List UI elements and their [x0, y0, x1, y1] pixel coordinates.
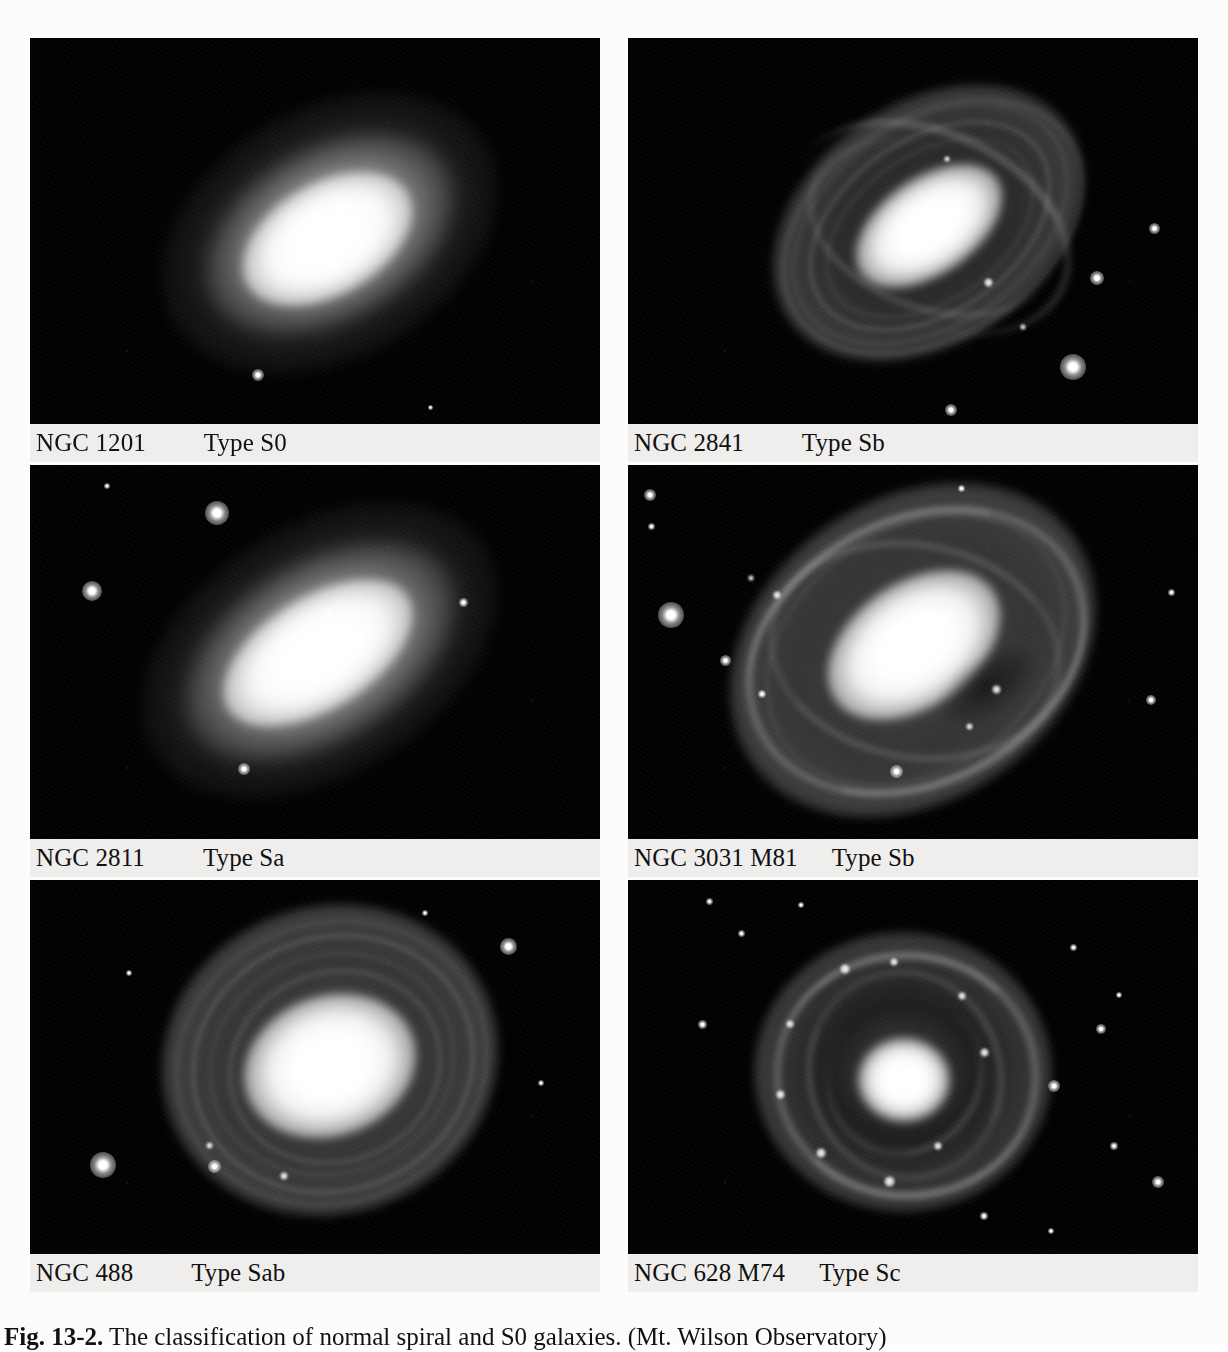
panel-ngc-2811: NGC 2811 Type Sa	[30, 465, 600, 877]
figure-caption-text: The classification of normal spiral and …	[109, 1323, 887, 1350]
film-grain	[30, 38, 600, 424]
panel-ngc-628: NGC 628 M74 Type Sc	[628, 880, 1198, 1292]
panel-ngc-2841: NGC 2841 Type Sb	[628, 38, 1198, 462]
photo-ngc-3031	[628, 465, 1198, 839]
panel-ngc-3031: NGC 3031 M81 Type Sb	[628, 465, 1198, 877]
panel-label-ngc-2811: NGC 2811 Type Sa	[30, 839, 600, 877]
photo-ngc-628	[628, 880, 1198, 1254]
object-designation: NGC 1201	[36, 429, 146, 457]
panel-ngc-1201: NGC 1201 Type S0	[30, 38, 600, 462]
morphological-type: Type Sab	[191, 1259, 285, 1287]
film-grain	[30, 465, 600, 839]
photo-ngc-1201	[30, 38, 600, 424]
photo-ngc-488	[30, 880, 600, 1254]
morphological-type: Type Sc	[819, 1259, 901, 1287]
panel-label-ngc-628: NGC 628 M74 Type Sc	[628, 1254, 1198, 1292]
object-designation: NGC 2811	[36, 844, 145, 872]
figure-caption: Fig. 13-2. The classification of normal …	[4, 1322, 1184, 1352]
object-designation: NGC 2841	[634, 429, 744, 457]
film-grain	[30, 880, 600, 1254]
morphological-type: Type S0	[204, 429, 287, 457]
film-grain	[628, 880, 1198, 1254]
photo-ngc-2811	[30, 465, 600, 839]
panel-label-ngc-2841: NGC 2841 Type Sb	[628, 424, 1198, 462]
panel-label-ngc-3031: NGC 3031 M81 Type Sb	[628, 839, 1198, 877]
morphological-type: Type Sb	[832, 844, 915, 872]
film-grain	[628, 465, 1198, 839]
figure-number: Fig. 13-2.	[4, 1323, 103, 1350]
photo-ngc-2841	[628, 38, 1198, 424]
object-designation: NGC 3031 M81	[634, 844, 798, 872]
panel-label-ngc-488: NGC 488 Type Sab	[30, 1254, 600, 1292]
panel-ngc-488: NGC 488 Type Sab	[30, 880, 600, 1292]
object-designation: NGC 628 M74	[634, 1259, 785, 1287]
object-designation: NGC 488	[36, 1259, 133, 1287]
film-grain	[628, 38, 1198, 424]
morphological-type: Type Sa	[203, 844, 285, 872]
panel-label-ngc-1201: NGC 1201 Type S0	[30, 424, 600, 462]
morphological-type: Type Sb	[802, 429, 885, 457]
galaxy-panel-grid: NGC 1201 Type S0	[30, 38, 1198, 1292]
